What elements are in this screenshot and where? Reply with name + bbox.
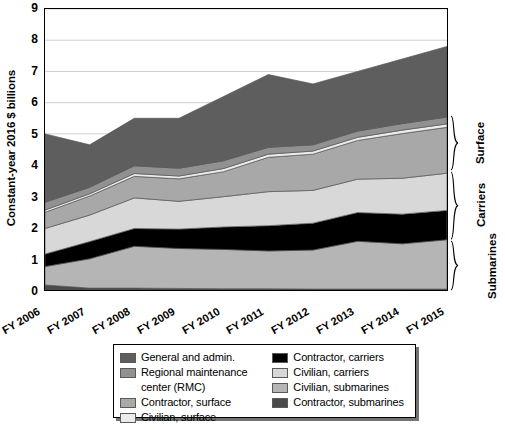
chart-legend: General and admin.Regional maintenancece…	[113, 344, 416, 418]
legend-item-label: Civilian, submarines	[293, 380, 388, 395]
group-bracket: Submarines	[449, 240, 505, 291]
legend-color-swatch	[120, 398, 136, 408]
y-axis-tick: 2	[31, 222, 38, 234]
curly-brace-icon	[450, 115, 459, 171]
legend-color-swatch	[272, 368, 288, 378]
y-axis-tick: 3	[31, 191, 38, 203]
y-axis-tick: 6	[31, 96, 38, 108]
legend-color-swatch	[272, 383, 288, 393]
y-axis-tick-labels: 0123456789	[22, 0, 42, 300]
legend-item-label: Regional maintenance	[141, 365, 247, 380]
x-axis-tick: FY 2007	[45, 305, 87, 336]
chart-plot-area	[44, 8, 448, 291]
y-axis-tick: 4	[31, 159, 38, 171]
legend-swatch-spacer	[120, 383, 136, 393]
legend-item-label: General and admin.	[141, 350, 235, 365]
legend-color-swatch	[272, 353, 288, 363]
legend-item-label: Contractor, carriers	[293, 350, 384, 365]
x-axis-tick: FY 2014	[359, 305, 401, 336]
legend-item: center (RMC)	[120, 380, 264, 395]
group-bracket-label: Surface	[459, 115, 505, 171]
x-axis-tick: FY 2009	[135, 305, 177, 336]
y-axis-tick: 7	[31, 65, 38, 77]
legend-item: Contractor, submarines	[272, 395, 409, 410]
y-axis-tick: 9	[31, 2, 38, 14]
y-axis-tick: 5	[31, 128, 38, 140]
x-axis-tick: FY 2008	[90, 305, 132, 336]
legend-item: Civilian, submarines	[272, 380, 409, 395]
legend-color-swatch	[120, 353, 136, 363]
x-axis-tick-labels: FY 2006FY 2007FY 2008FY 2009FY 2010FY 20…	[0, 292, 505, 340]
curly-brace-icon	[450, 171, 459, 240]
legend-item-label: Contractor, surface	[141, 395, 231, 410]
legend-item: Regional maintenance	[120, 365, 264, 380]
group-brackets: SurfaceCarriersSubmarines	[449, 8, 505, 291]
y-axis-tick: 1	[31, 254, 38, 266]
legend-item-label: Civilian, surface	[141, 410, 216, 425]
x-axis-tick: FY 2011	[224, 305, 265, 336]
legend-item: Civilian, surface	[120, 410, 264, 425]
stacked-area-svg	[45, 9, 447, 290]
y-axis-title-text: Constant-year 2016 $ billions	[5, 69, 17, 225]
legend-item-label: Contractor, submarines	[293, 395, 403, 410]
group-bracket: Surface	[449, 115, 505, 171]
y-axis-tick: 8	[31, 33, 38, 45]
legend-item: Civilian, carriers	[272, 365, 409, 380]
x-axis-tick: FY 2012	[269, 305, 311, 336]
x-axis-tick: FY 2006	[0, 305, 42, 336]
x-axis-tick: FY 2010	[180, 305, 222, 336]
legend-color-swatch	[272, 398, 288, 408]
area-bands-group	[45, 46, 447, 290]
legend-column-left: General and admin.Regional maintenancece…	[120, 350, 264, 413]
legend-color-swatch	[120, 413, 136, 423]
x-axis-tick: FY 2013	[314, 305, 356, 336]
legend-item: Contractor, carriers	[272, 350, 409, 365]
legend-item: General and admin.	[120, 350, 264, 365]
legend-column-right: Contractor, carriersCivilian, carriersCi…	[272, 350, 409, 413]
group-bracket-label: Submarines	[459, 240, 505, 291]
group-bracket-label: Carriers	[459, 171, 505, 240]
curly-brace-icon	[450, 240, 459, 291]
legend-item: Contractor, surface	[120, 395, 264, 410]
x-axis-tick: FY 2015	[404, 305, 446, 336]
legend-item-label: center (RMC)	[141, 380, 205, 395]
group-bracket: Carriers	[449, 171, 505, 240]
legend-item-label: Civilian, carriers	[293, 365, 369, 380]
legend-color-swatch	[120, 368, 136, 378]
y-axis-title: Constant-year 2016 $ billions	[0, 0, 22, 295]
